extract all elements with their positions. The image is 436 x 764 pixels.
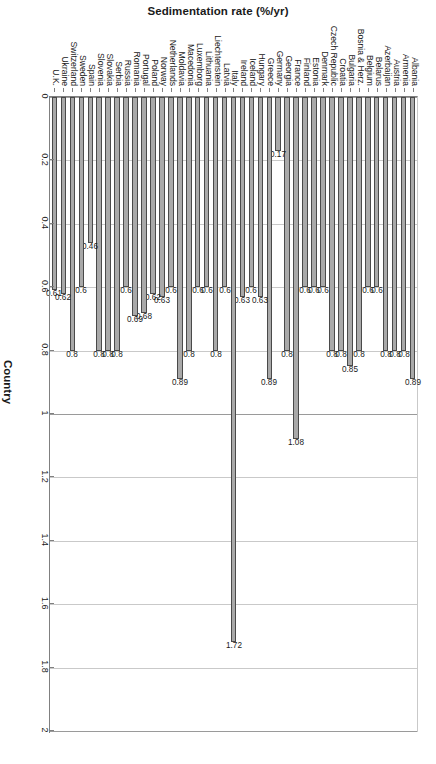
value-axis-tick-label: 0.4 <box>40 217 50 230</box>
category-tick-mark <box>162 88 163 92</box>
bar-row: 0.8 <box>284 97 290 731</box>
category-tick-mark <box>413 88 414 92</box>
value-axis-tick-mark <box>50 603 54 604</box>
value-axis-tick-label: 0 <box>40 93 50 98</box>
value-axis-tick-label: 2 <box>40 727 50 732</box>
category-label: Belgium <box>365 55 374 86</box>
category-label: Sweden <box>79 55 88 86</box>
bar <box>249 97 255 287</box>
category-tick-mark <box>386 88 387 92</box>
category-label: Czech Republic <box>329 26 338 86</box>
category-label: Hungary <box>258 54 267 86</box>
bar <box>356 97 362 351</box>
category-tick-mark <box>251 88 252 92</box>
bar <box>311 97 317 287</box>
category-label: Albania <box>410 57 419 86</box>
bar <box>96 97 102 351</box>
category-tick-mark <box>242 88 243 92</box>
value-axis-tick-mark <box>50 286 54 287</box>
bar <box>114 97 120 351</box>
category-tick-mark <box>144 88 145 92</box>
category-tick-mark <box>395 88 396 92</box>
bar-row: 0.8 <box>392 97 398 731</box>
bar-value-label: 0.6 <box>362 286 373 295</box>
category-label: Serbia <box>115 61 124 86</box>
bar <box>320 97 326 287</box>
category-label: Slovenia <box>97 53 106 86</box>
category-tick-mark <box>216 88 217 92</box>
bar-row: 1.72 <box>231 97 237 731</box>
bar <box>392 97 398 351</box>
bar-row: 0.46 <box>88 97 94 731</box>
value-axis-tick-label: 1.8 <box>40 660 50 673</box>
bar <box>293 97 299 439</box>
category-label: Slovakia <box>106 54 115 86</box>
category-tick-mark <box>234 88 235 92</box>
category-label: Ukraine <box>61 56 70 86</box>
bar <box>365 97 371 287</box>
bar <box>61 97 67 294</box>
category-tick-mark <box>296 88 297 92</box>
category-label: Moldavia <box>177 52 186 86</box>
bar-row: 0.6 <box>320 97 326 731</box>
bar-value-label: 0.6 <box>165 286 176 295</box>
category-label: Liechtenstein <box>213 35 222 86</box>
value-axis-tick-label: 0.2 <box>40 153 50 166</box>
bar-row: 0.8 <box>329 97 335 731</box>
category-tick-mark <box>54 88 55 92</box>
value-axis-ticks: 00.20.40.60.811.21.41.61.82 <box>20 96 50 732</box>
chart-figure: Sedimentation rate (%/yr) AlbaniaArmenia… <box>0 0 436 764</box>
category-label: Romania <box>132 52 141 86</box>
bar-value-label: 0.69 <box>127 314 143 323</box>
value-axis-tick-mark <box>50 223 54 224</box>
bar-value-label: 0.8 <box>67 349 78 358</box>
bar-value-label: 0.8 <box>282 349 293 358</box>
bar-row: 0.6 <box>311 97 317 731</box>
value-axis-tick-mark <box>50 730 54 731</box>
bar-value-label: 0.6 <box>246 286 257 295</box>
category-label: Estonia <box>311 57 320 86</box>
category-label: Switzerland <box>70 42 79 86</box>
category-tick-mark <box>404 88 405 92</box>
bar <box>302 97 308 287</box>
category-tick-mark <box>350 88 351 92</box>
category-label: Georgia <box>285 55 294 86</box>
bar <box>177 97 183 379</box>
bar-row: 0.6 <box>222 97 228 731</box>
bar <box>195 97 201 287</box>
bar-row: 0.8 <box>401 97 407 731</box>
bar-row: 0.89 <box>177 97 183 731</box>
bar-series: 0.890.80.80.80.60.60.80.850.80.80.60.60.… <box>50 97 417 731</box>
bar <box>338 97 344 351</box>
category-label: Armenia <box>401 54 410 86</box>
bar <box>52 97 58 290</box>
bar-value-label: 0.8 <box>94 349 105 358</box>
category-tick-mark <box>171 88 172 92</box>
category-label: Greece <box>267 58 276 86</box>
value-axis-tick-mark <box>50 413 54 414</box>
bar-row: 0.6 <box>204 97 210 731</box>
bar-value-label: 0.85 <box>342 365 358 374</box>
bar-row: 0.61 <box>52 97 58 731</box>
value-axis-tick-mark <box>50 540 54 541</box>
category-tick-mark <box>117 88 118 92</box>
bar-value-label: 0.6 <box>76 286 87 295</box>
category-label: Ireland <box>240 60 249 86</box>
bar-row: 0.8 <box>114 97 120 731</box>
bar-row: 0.8 <box>213 97 219 731</box>
category-tick-mark <box>314 88 315 92</box>
value-axis-tick-mark <box>50 476 54 477</box>
bar-row: 0.89 <box>267 97 273 731</box>
value-axis-tick-mark <box>50 96 54 97</box>
category-tick-mark <box>153 88 154 92</box>
category-tick-mark <box>323 88 324 92</box>
bar-value-label: 0.8 <box>380 349 391 358</box>
bar-value-label: 0.62 <box>145 292 161 301</box>
gridline <box>50 731 417 732</box>
bar <box>410 97 416 379</box>
bar-value-label: 0.6 <box>299 286 310 295</box>
bar <box>88 97 94 243</box>
bar <box>150 97 156 294</box>
chart-figure-rotated: Sedimentation rate (%/yr) AlbaniaArmenia… <box>0 0 436 764</box>
bar-value-label: 0.8 <box>210 349 221 358</box>
